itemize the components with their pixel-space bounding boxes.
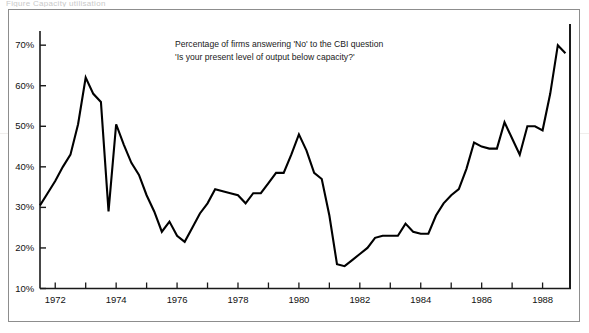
x-tick-label: 1976 [157, 294, 197, 305]
chart-axes [40, 24, 571, 289]
figure-root: Figure Capacity utilisation 70%60%50%40%… [0, 0, 589, 333]
capacity-utilisation-series [40, 45, 565, 266]
x-tick-marks [55, 283, 542, 289]
y-tick-label: 70% [2, 39, 34, 50]
y-tick-label: 20% [2, 242, 34, 253]
y-tick-label: 10% [2, 283, 34, 294]
x-tick-label: 1988 [523, 294, 563, 305]
x-tick-label: 1978 [218, 294, 258, 305]
x-tick-label: 1972 [35, 294, 75, 305]
x-tick-label: 1984 [401, 294, 441, 305]
y-tick-marks [40, 45, 46, 288]
chart-annotation-line-1: Percentage of firms answering 'No' to th… [175, 38, 383, 51]
x-tick-label: 1980 [279, 294, 319, 305]
y-tick-label: 30% [2, 201, 34, 212]
chart-annotation-line-2: 'Is your present level of output below c… [175, 51, 383, 64]
x-tick-label: 1974 [96, 294, 136, 305]
x-tick-label: 1982 [340, 294, 380, 305]
y-tick-label: 50% [2, 120, 34, 131]
chart-annotation: Percentage of firms answering 'No' to th… [175, 38, 383, 63]
y-tick-label: 60% [2, 80, 34, 91]
x-tick-label: 1986 [462, 294, 502, 305]
y-tick-label: 40% [2, 161, 34, 172]
